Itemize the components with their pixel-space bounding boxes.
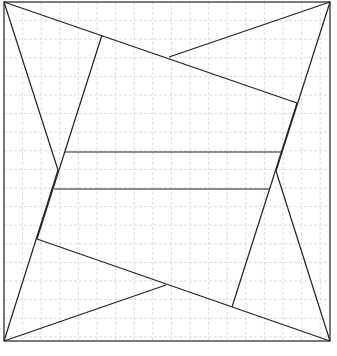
segment-D-BR xyxy=(37,239,330,341)
segment-A-D xyxy=(37,35,102,239)
segment-G-BL xyxy=(4,170,58,341)
line-segments xyxy=(4,2,330,341)
segment-H-BR xyxy=(276,171,330,341)
geometric-diagram xyxy=(0,0,337,356)
segment-BL-F xyxy=(4,285,166,341)
outer-frame xyxy=(4,2,330,341)
segment-TL-G xyxy=(4,2,58,170)
segment-TL-B xyxy=(4,2,297,103)
background-grid xyxy=(4,2,330,341)
segment-TR-H xyxy=(276,2,330,171)
segment-TR-E xyxy=(169,2,330,57)
